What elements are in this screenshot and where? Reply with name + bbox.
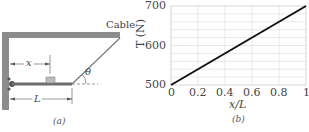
cable bbox=[72, 38, 120, 84]
length-label: L bbox=[34, 93, 41, 104]
x-axis-label: x/L bbox=[229, 98, 246, 111]
beam bbox=[12, 83, 72, 86]
y-tick-label: 500 bbox=[145, 78, 166, 91]
wall bbox=[2, 32, 9, 110]
x-tick-label: 0.2 bbox=[189, 86, 207, 99]
arrow-left-icon bbox=[10, 63, 15, 66]
caption-a: (a) bbox=[53, 116, 65, 126]
x-tick-label: 1 bbox=[303, 86, 309, 99]
x-label: x bbox=[26, 57, 32, 68]
hinge-bolt-icon bbox=[7, 87, 10, 90]
arrow-right-icon bbox=[67, 98, 72, 101]
figure bbox=[0, 0, 309, 132]
ceiling bbox=[2, 32, 120, 38]
panel-b-chart bbox=[171, 6, 306, 85]
y-axis-label: T (N) bbox=[134, 19, 147, 48]
x-tick-label: 0 bbox=[168, 86, 175, 99]
cable-label: Cable bbox=[106, 19, 135, 30]
hinge-bolt-icon bbox=[7, 77, 10, 80]
y-tick-label: 700 bbox=[145, 0, 166, 12]
caption-b: (b) bbox=[232, 114, 245, 124]
angle-label: θ bbox=[85, 66, 91, 77]
load-box bbox=[46, 77, 55, 83]
arrow-right-icon bbox=[45, 63, 50, 66]
y-tick-label: 600 bbox=[145, 39, 166, 52]
panel-a-diagram bbox=[2, 32, 120, 110]
x-tick-label: 0.8 bbox=[270, 86, 288, 99]
arrow-left-icon bbox=[10, 98, 15, 101]
